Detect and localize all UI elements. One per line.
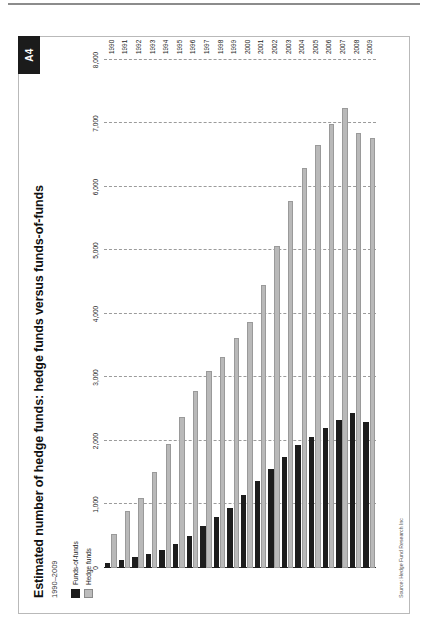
bar-funds-of-funds-1992: [132, 557, 137, 568]
bar-funds-of-funds-2006: [323, 428, 328, 568]
category-label-1996: 1996: [189, 40, 196, 54]
category-label-2007: 2007: [339, 40, 346, 54]
bar-group-1995: [172, 60, 186, 568]
chart-source: Source: Hedge Fund Research Inc: [398, 518, 404, 598]
bar-group-2002: [267, 60, 281, 568]
bar-funds-of-funds-1995: [173, 544, 178, 568]
page-top-rule: [8, 3, 420, 5]
bar-funds-of-funds-1994: [159, 550, 164, 568]
bar-hedge-funds-2009: [370, 138, 375, 568]
category-label-1990: 1990: [107, 40, 114, 54]
bar-group-1994: [158, 60, 172, 568]
bar-hedge-funds-1990: [111, 534, 116, 568]
x-tick-label-7000: 7,000: [92, 115, 99, 132]
bar-funds-of-funds-1999: [227, 508, 232, 568]
bar-funds-of-funds-2001: [255, 481, 260, 568]
x-tick-label-1000: 1,000: [92, 496, 99, 513]
bar-group-2001: [254, 60, 268, 568]
category-label-1994: 1994: [162, 40, 169, 54]
bar-funds-of-funds-2004: [295, 445, 300, 568]
bar-funds-of-funds-2007: [336, 420, 341, 568]
bar-hedge-funds-2002: [274, 246, 279, 568]
bar-hedge-funds-1996: [193, 391, 198, 568]
category-label-2001: 2001: [257, 40, 264, 54]
bar-funds-of-funds-1991: [119, 560, 124, 568]
chart-title: Estimated number of hedge funds: hedge f…: [32, 185, 46, 598]
bar-funds-of-funds-2009: [363, 422, 368, 568]
bar-group-2008: [349, 60, 363, 568]
category-label-1997: 1997: [203, 40, 210, 54]
category-label-2002: 2002: [271, 40, 278, 54]
bar-hedge-funds-2000: [247, 322, 252, 568]
bar-group-2009: [362, 60, 376, 568]
bar-funds-of-funds-1998: [214, 517, 219, 568]
bar-hedge-funds-1998: [220, 357, 225, 568]
legend-label-hedge-funds: Hedge funds: [85, 548, 92, 585]
category-label-2006: 2006: [325, 40, 332, 54]
bar-funds-of-funds-2003: [282, 457, 287, 568]
funds-of-funds-swatch: [71, 589, 80, 598]
bar-hedge-funds-1993: [152, 472, 157, 568]
bar-group-1997: [199, 60, 213, 568]
bar-funds-of-funds-1997: [200, 526, 205, 568]
bar-group-1991: [118, 60, 132, 568]
bar-hedge-funds-2004: [302, 168, 307, 568]
bar-hedge-funds-2005: [315, 145, 320, 568]
category-label-1993: 1993: [148, 40, 155, 54]
hedge-funds-swatch: [84, 589, 93, 598]
x-tick-label-2000: 2,000: [92, 433, 99, 450]
category-label-1995: 1995: [175, 40, 182, 54]
bar-funds-of-funds-1990: [105, 563, 110, 568]
bar-hedge-funds-2001: [261, 285, 266, 568]
x-tick-label-5000: 5,000: [92, 242, 99, 259]
bar-funds-of-funds-2000: [241, 495, 246, 568]
bar-funds-of-funds-2008: [350, 413, 355, 568]
category-label-2005: 2005: [311, 40, 318, 54]
bar-hedge-funds-1997: [206, 371, 211, 568]
bar-group-1992: [131, 60, 145, 568]
x-tick-label-4000: 4,000: [92, 306, 99, 323]
bar-group-1998: [213, 60, 227, 568]
category-label-1999: 1999: [230, 40, 237, 54]
bar-group-2007: [335, 60, 349, 568]
chart-subtitle: 1990–2009: [50, 560, 59, 598]
bar-hedge-funds-1994: [166, 445, 171, 569]
bar-group-2003: [281, 60, 295, 568]
chart-stage: Estimated number of hedge funds: hedge f…: [18, 36, 410, 614]
x-tick-label-8000: 8,000: [92, 52, 99, 69]
bar-hedge-funds-2008: [356, 133, 361, 568]
bar-group-1996: [186, 60, 200, 568]
bar-funds-of-funds-1996: [187, 536, 192, 568]
category-label-2004: 2004: [298, 40, 305, 54]
bar-group-2006: [322, 60, 336, 568]
legend-item-funds-of-funds: Funds-of-funds: [70, 541, 81, 598]
bar-group-2000: [240, 60, 254, 568]
bar-hedge-funds-1992: [138, 498, 143, 568]
category-label-2009: 2009: [366, 40, 373, 54]
category-label-1998: 1998: [216, 40, 223, 54]
category-label-1992: 1992: [135, 40, 142, 54]
bar-hedge-funds-1999: [234, 338, 239, 568]
bar-group-2005: [308, 60, 322, 568]
bar-group-1990: [104, 60, 118, 568]
bar-hedge-funds-2003: [288, 201, 293, 568]
bar-funds-of-funds-2002: [268, 469, 273, 568]
legend-label-funds-of-funds: Funds-of-funds: [72, 541, 79, 585]
bar-group-1999: [226, 60, 240, 568]
bar-group-1993: [145, 60, 159, 568]
bar-funds-of-funds-1993: [146, 554, 151, 568]
category-label-2008: 2008: [352, 40, 359, 54]
bar-funds-of-funds-2005: [309, 437, 314, 568]
bar-group-2004: [294, 60, 308, 568]
bar-hedge-funds-1991: [125, 511, 130, 568]
x-tick-label-0: 0: [92, 566, 99, 570]
bar-hedge-funds-2006: [329, 124, 334, 568]
category-label-1991: 1991: [121, 40, 128, 54]
bar-hedge-funds-2007: [342, 108, 347, 568]
category-label-2000: 2000: [243, 40, 250, 54]
bar-hedge-funds-1995: [179, 417, 184, 568]
x-tick-label-6000: 6,000: [92, 179, 99, 196]
x-tick-label-3000: 3,000: [92, 369, 99, 386]
plot-area: 01,0002,0003,0004,0005,0006,0007,0008,00…: [104, 60, 376, 568]
category-label-2003: 2003: [284, 40, 291, 54]
